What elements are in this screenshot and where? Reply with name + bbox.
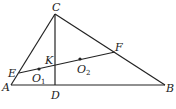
label-A: A — [1, 81, 10, 94]
label-D: D — [50, 89, 60, 102]
label-F: F — [114, 41, 123, 54]
point-O2-dot — [78, 57, 81, 60]
geometry-diagram: C A B D E F K O 1 O 2 — [0, 0, 176, 109]
label-E: E — [7, 67, 16, 80]
label-K: K — [44, 54, 54, 67]
label-C: C — [52, 1, 61, 14]
label-O2: O — [77, 63, 86, 76]
label-B: B — [165, 82, 174, 95]
segment-BC — [55, 14, 165, 85]
segment-EF — [19, 52, 115, 73]
label-O1-subscript: 1 — [41, 78, 45, 86]
label-O2-subscript: 2 — [86, 69, 90, 77]
point-O1-dot — [37, 67, 40, 70]
label-O1: O — [32, 72, 41, 85]
